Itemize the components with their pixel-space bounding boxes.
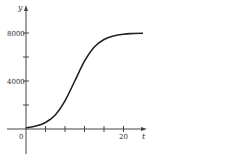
y-axis-label: y (17, 3, 23, 12)
x-tick-label-0: 0 (19, 133, 23, 141)
y-tick-label-4000: 4000 (7, 78, 25, 86)
x-tick-label-20: 20 (119, 133, 128, 141)
y-axis-arrow-icon (24, 5, 28, 11)
chart: 8000 4000 0 20 y t (0, 0, 227, 156)
logistic-curve (26, 33, 143, 128)
x-axis-label: t (142, 132, 146, 141)
y-tick-label-8000: 8000 (7, 30, 25, 38)
x-axis-arrow-icon (141, 127, 147, 131)
